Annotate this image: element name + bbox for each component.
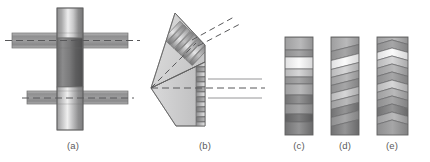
figure-root: (a) (b) (c) (d) (e) bbox=[0, 0, 430, 162]
technical-diagram-svg bbox=[0, 0, 430, 162]
caption-panel-a: (a) bbox=[67, 140, 79, 151]
panel-d-group bbox=[329, 37, 361, 136]
caption-panel-e: (e) bbox=[386, 140, 398, 151]
panel-b-group bbox=[151, 13, 265, 127]
panel-c-group bbox=[283, 37, 315, 135]
caption-panel-c: (c) bbox=[293, 140, 305, 151]
caption-panel-d: (d) bbox=[339, 140, 351, 151]
caption-panel-b: (b) bbox=[199, 140, 211, 151]
panel-a-vertical-disc bbox=[57, 8, 83, 130]
panel-b-lower-blades bbox=[196, 62, 216, 127]
panel-a-group bbox=[5, 8, 140, 130]
panel-e-group bbox=[375, 37, 410, 136]
